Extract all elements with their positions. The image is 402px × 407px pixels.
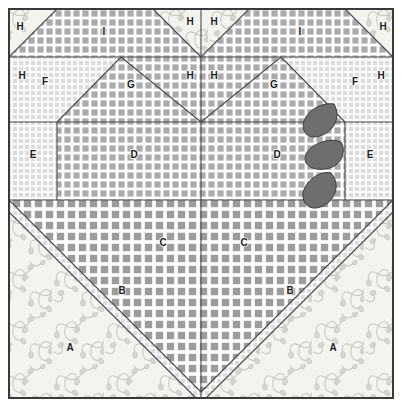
label-E-left: E: [30, 149, 37, 160]
label-F-right: F: [352, 76, 358, 87]
label-C-right: C: [240, 237, 247, 248]
label-E-right: E: [367, 149, 374, 160]
label-H-mid-right: H: [210, 70, 217, 81]
piece-E-left: [9, 122, 57, 200]
quilt-diagram-canvas: A A B B C C D D E E F F G G H H H H H H …: [0, 0, 402, 407]
label-D-left: D: [130, 149, 137, 160]
label-H-corner-top-left: H: [16, 21, 23, 32]
label-F-left: F: [42, 76, 48, 87]
label-I-left: I: [103, 26, 106, 37]
quilt-block-diagram: A A B B C C D D E E F F G G H H H H H H …: [0, 0, 402, 407]
label-H-top-right: H: [210, 16, 217, 27]
label-B-right: B: [286, 285, 293, 296]
label-A-left: A: [66, 342, 73, 353]
label-G-left: G: [127, 79, 135, 90]
label-H-top-left: H: [186, 16, 193, 27]
label-A-right: A: [329, 342, 336, 353]
label-H-side-left: H: [18, 70, 25, 81]
label-H-side-right: H: [377, 70, 384, 81]
label-B-left: B: [118, 285, 125, 296]
label-D-right: D: [273, 149, 280, 160]
label-H-mid-left: H: [186, 70, 193, 81]
label-H-corner-top-right: H: [379, 21, 386, 32]
label-G-right: G: [270, 79, 278, 90]
piece-E-right: [345, 122, 393, 200]
label-C-left: C: [159, 237, 166, 248]
label-I-right: I: [299, 26, 302, 37]
